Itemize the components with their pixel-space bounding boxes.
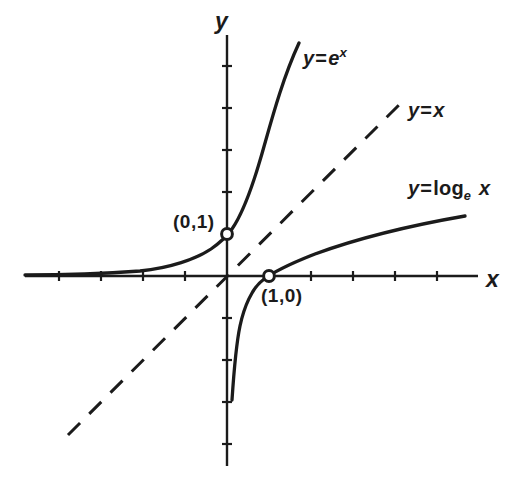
exponential-label-equals: = [314,47,328,69]
y-axis-label: y [215,10,228,33]
function-graph-figure: y x y=ex y=x y=loge x (0,1) (1,0) [0,0,517,490]
point-marker-0-1 [222,229,233,240]
logarithm-curve [232,216,465,400]
identity-label-lhs: y [408,99,419,121]
point-label-0-1: (0,1) [173,212,215,231]
logarithm-label-equals: = [419,177,433,199]
exponential-curve [25,43,299,275]
exponential-label-lhs: y [303,47,314,69]
point-label-1-0: (1,0) [261,286,303,305]
identity-label-equals: = [419,99,433,121]
x-axis-label: x [486,268,499,291]
logarithm-label-fn: log [433,177,464,199]
logarithm-label-lhs: y [408,177,419,199]
exponential-label-base: e [328,47,339,69]
identity-label-rhs: x [433,99,444,121]
exponential-label-exponent: x [340,45,348,60]
plot-canvas [0,0,517,490]
point-marker-1-0 [264,271,275,282]
exponential-curve-label: y=ex [303,48,347,68]
logarithm-curve-label: y=loge x [408,178,490,198]
identity-line-label: y=x [408,100,445,120]
logarithm-label-arg: x [479,177,490,199]
